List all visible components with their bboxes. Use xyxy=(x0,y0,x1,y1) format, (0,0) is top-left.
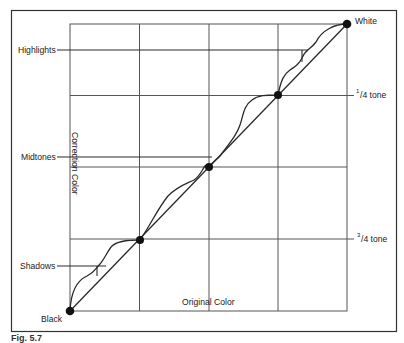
black-point-dot xyxy=(66,307,75,316)
midtone-anchor-dot xyxy=(205,163,213,171)
highlight-anchor-dot xyxy=(274,91,282,99)
white-point-dot xyxy=(343,20,352,29)
svg-text:/4 tone: /4 tone xyxy=(361,234,388,244)
leader-lines xyxy=(57,50,308,276)
label-shadows: Shadows xyxy=(20,261,55,271)
x-axis-label: Original Color xyxy=(182,297,235,307)
label-black: Black xyxy=(41,314,63,324)
label-white: White xyxy=(355,16,377,26)
figure-caption: Fig. 5.7 xyxy=(11,334,42,343)
label-quarter-tone: 1 /4 tone xyxy=(356,88,387,100)
figure-frame xyxy=(12,11,397,332)
label-highlights: Highlights xyxy=(18,45,56,55)
label-midtones: Midtones xyxy=(21,152,56,162)
label-three-quarter-tone: 3 /4 tone xyxy=(357,232,388,244)
shadow-anchor-dot xyxy=(136,236,144,244)
svg-text:/4 tone: /4 tone xyxy=(360,90,387,100)
tone-curve-figure: White Black Highlights Midtones Shadows … xyxy=(0,0,404,343)
y-axis-label: Correction Color xyxy=(70,132,80,195)
